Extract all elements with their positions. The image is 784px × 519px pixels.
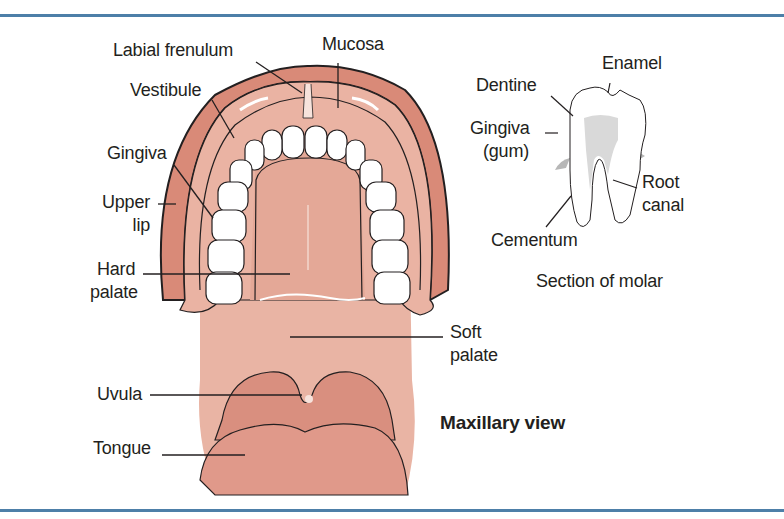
label-hard-palate-line2: palate [90, 282, 138, 303]
label-root-canal-line2: canal [642, 195, 684, 216]
label-soft-palate-line1: Soft [450, 322, 481, 343]
label-labial-frenulum: Labial frenulum [113, 40, 233, 61]
label-molar-gingiva-line2: (gum) [483, 141, 529, 162]
label-root-canal-line1: Root [642, 172, 679, 193]
figure-title: Maxillary view [440, 412, 565, 433]
label-gingiva: Gingiva [107, 143, 167, 164]
label-uvula: Uvula [97, 384, 142, 405]
label-cementum: Cementum [491, 230, 577, 251]
hard-palate-shape [250, 150, 365, 300]
label-soft-palate-line2: palate [450, 345, 498, 366]
inset-title: Section of molar [536, 271, 663, 292]
label-upper-lip-line1: Upper [94, 192, 150, 213]
label-tongue: Tongue [93, 438, 151, 459]
label-molar-gingiva-line1: Gingiva [470, 118, 530, 139]
label-vestibule: Vestibule [130, 80, 201, 101]
label-hard-palate-line1: Hard [97, 259, 135, 280]
label-mucosa: Mucosa [322, 34, 384, 55]
label-upper-lip-line2: lip [94, 215, 150, 236]
molar-section [545, 59, 646, 227]
label-dentine: Dentine [476, 75, 537, 96]
label-enamel: Enamel [602, 53, 662, 74]
